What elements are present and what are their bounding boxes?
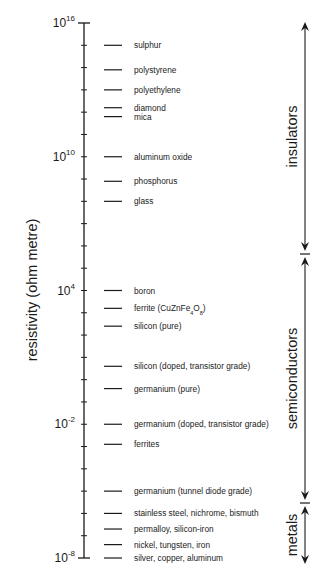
material-label: silver, copper, aluminum bbox=[134, 553, 223, 563]
material-label: germanium (doped, transistor grade) bbox=[134, 419, 269, 429]
material-label: polystyrene bbox=[134, 65, 177, 75]
y-tick-label: 1010 bbox=[53, 148, 76, 164]
material-label: glass bbox=[134, 196, 153, 206]
class-label: metals bbox=[284, 514, 300, 557]
y-tick-label: 1016 bbox=[53, 14, 76, 30]
material-label: boron bbox=[134, 286, 156, 296]
material-marker: polyethylene bbox=[104, 85, 181, 95]
class-range-insulators: insulators bbox=[284, 22, 309, 251]
class-label: semiconductors bbox=[284, 328, 300, 430]
material-marker: aluminum oxide bbox=[104, 152, 192, 162]
y-axis-title: resistivity (ohm metre) bbox=[24, 219, 40, 362]
material-label: germanium (tunnel diode grade) bbox=[134, 486, 252, 496]
material-label: ferrites bbox=[134, 439, 159, 449]
material-marker: boron bbox=[104, 286, 156, 296]
class-range-semiconductors: semiconductors bbox=[284, 257, 309, 500]
material-marker: sulphur bbox=[104, 40, 161, 50]
resistivity-chart: resistivity (ohm metre) 1016101010410-21… bbox=[0, 0, 321, 571]
class-label: insulators bbox=[284, 105, 300, 167]
material-marker: silver, copper, aluminum bbox=[104, 553, 223, 563]
material-marker: polystyrene bbox=[104, 65, 177, 75]
material-label: aluminum oxide bbox=[134, 152, 192, 162]
material-marker: nickel, tungsten, iron bbox=[104, 540, 210, 550]
material-marker: mica bbox=[104, 112, 152, 122]
y-axis-label: resistivity (ohm metre) bbox=[24, 219, 40, 362]
material-label: mica bbox=[134, 112, 152, 122]
material-label: sulphur bbox=[134, 40, 161, 50]
material-marker: germanium (tunnel diode grade) bbox=[104, 486, 252, 496]
material-marker: germanium (pure) bbox=[104, 384, 200, 394]
material-marker: germanium (doped, transistor grade) bbox=[104, 419, 269, 429]
material-markers: sulphurpolystyrenepolyethylenediamondmic… bbox=[104, 40, 269, 563]
material-label: germanium (pure) bbox=[134, 384, 200, 394]
material-marker: stainless steel, nichrome, bismuth bbox=[104, 508, 259, 518]
material-marker: phosphorus bbox=[104, 176, 177, 186]
material-marker: ferrite (CuZnFe4O8) bbox=[104, 303, 206, 316]
material-label: polyethylene bbox=[134, 85, 181, 95]
y-tick-label: 10-2 bbox=[55, 415, 76, 431]
material-marker: glass bbox=[104, 196, 153, 206]
class-ranges: insulatorssemiconductorsmetals bbox=[284, 22, 310, 564]
material-label: permalloy, silicon-iron bbox=[134, 524, 214, 534]
material-label: silicon (pure) bbox=[134, 321, 182, 331]
material-label: silicon (doped, transistor grade) bbox=[134, 361, 250, 371]
material-label: stainless steel, nichrome, bismuth bbox=[134, 508, 259, 518]
y-tick-labels: 1016101010410-210-8 bbox=[53, 14, 76, 565]
material-marker: silicon (pure) bbox=[104, 321, 182, 331]
chart-canvas: resistivity (ohm metre) 1016101010410-21… bbox=[0, 0, 321, 571]
material-label: ferrite (CuZnFe4O8) bbox=[134, 303, 206, 316]
class-range-metals: metals bbox=[284, 506, 309, 564]
material-marker: silicon (doped, transistor grade) bbox=[104, 361, 250, 371]
y-tick-label: 104 bbox=[57, 282, 75, 298]
material-marker: permalloy, silicon-iron bbox=[104, 524, 214, 534]
y-tick-label: 10-8 bbox=[55, 549, 76, 565]
material-marker: ferrites bbox=[104, 439, 159, 449]
material-label: nickel, tungsten, iron bbox=[134, 540, 210, 550]
material-label: phosphorus bbox=[134, 176, 177, 186]
y-axis bbox=[78, 23, 90, 558]
